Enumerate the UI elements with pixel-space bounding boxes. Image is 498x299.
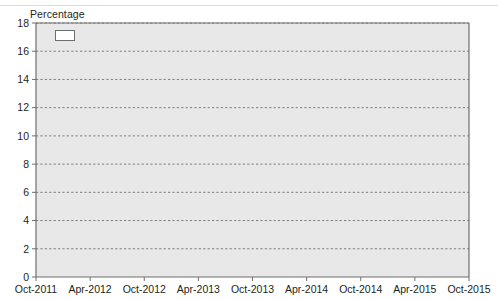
y-tick-label: 12: [17, 101, 29, 113]
y-tick-label: 16: [17, 45, 29, 57]
chart-figure: Percentage 024681012141618Oct-2011Apr-20…: [0, 0, 498, 299]
plot-background: [36, 23, 469, 277]
chart-legend: [55, 30, 75, 41]
x-tick-label: Oct-2013: [231, 283, 274, 295]
x-tick-label: Apr-2015: [393, 283, 436, 295]
x-tick-label: Oct-2012: [123, 283, 166, 295]
y-tick-label: 18: [17, 17, 29, 29]
y-tick-label: 0: [23, 271, 29, 283]
x-tick-label: Oct-2011: [15, 283, 58, 295]
plot-area: 024681012141618Oct-2011Apr-2012Oct-2012A…: [0, 0, 498, 299]
y-tick-label: 6: [23, 186, 29, 198]
x-tick-label: Oct-2015: [447, 283, 490, 295]
y-tick-label: 14: [17, 73, 29, 85]
y-tick-label: 2: [23, 243, 29, 255]
y-tick-label: 10: [17, 130, 29, 142]
y-tick-label: 8: [23, 158, 29, 170]
line-chart-svg: 024681012141618Oct-2011Apr-2012Oct-2012A…: [0, 0, 498, 299]
x-tick-label: Oct-2014: [339, 283, 382, 295]
x-tick-label: Apr-2012: [69, 283, 112, 295]
y-tick-label: 4: [23, 214, 29, 226]
x-tick-label: Apr-2013: [177, 283, 220, 295]
x-tick-label: Apr-2014: [285, 283, 328, 295]
